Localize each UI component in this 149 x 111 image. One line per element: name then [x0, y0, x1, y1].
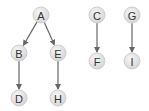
node-D: D [11, 90, 27, 106]
node-B: B [11, 45, 27, 61]
node-C: C [89, 7, 105, 23]
node-H: H [50, 90, 66, 106]
node-label: C [93, 10, 101, 22]
node-label: D [15, 93, 23, 105]
node-label: F [94, 56, 101, 68]
nodes: ABEDHCFGI [11, 7, 140, 106]
edge-A-B [24, 22, 37, 45]
node-E: E [50, 45, 66, 61]
node-A: A [33, 7, 49, 23]
node-I: I [124, 53, 140, 69]
edge-A-E [44, 22, 54, 44]
node-label: I [130, 56, 133, 68]
node-label: E [54, 48, 61, 60]
node-label: B [15, 48, 22, 60]
node-label: H [54, 93, 62, 105]
node-F: F [89, 53, 105, 69]
node-label: G [128, 10, 137, 22]
edges [19, 22, 132, 89]
node-label: A [37, 10, 45, 22]
node-G: G [124, 7, 140, 23]
tree-diagram: ABEDHCFGI [0, 0, 149, 111]
